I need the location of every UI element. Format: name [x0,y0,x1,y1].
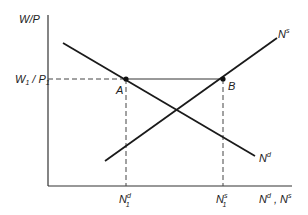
y-axis-label: W/P [19,13,40,25]
point-a-label: A [115,84,123,96]
labor-demand-label: Nd [259,151,272,164]
point-b [220,76,225,81]
labor-market-diagram: A B W/P W1 / P1 Ns Nd Nd1 Ns1 Nd , Ns [0,0,308,215]
wage-level-label: W1 / P1 [15,73,50,86]
labor-supply-curve [105,38,277,161]
x-axis-label: Nd , Ns [259,192,292,205]
labor-demand-curve [63,43,255,156]
ns1-tick-label: Ns1 [216,192,228,208]
point-a [123,76,128,81]
labor-supply-label: Ns [278,27,290,40]
nd1-tick-label: Nd1 [119,192,132,208]
point-b-label: B [228,80,235,92]
